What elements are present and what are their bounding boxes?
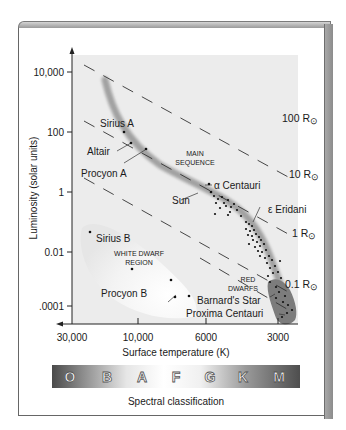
x-tick-label: 6000 [195, 332, 218, 343]
main-sequence-label: SEQUENCE [175, 159, 215, 167]
y-tick-label: .0001 [39, 301, 64, 312]
white-dwarf-label: REGION [125, 259, 153, 266]
main-sequence-label: MAIN [186, 150, 204, 157]
y-axis-arrow-icon [70, 47, 75, 54]
star-label-epsilon-eridani: ε Eridani [268, 204, 306, 215]
red-dwarfs-label: RED [241, 276, 256, 283]
spectral-class-m: M [273, 369, 285, 385]
star-label-altair: Altair [87, 146, 110, 157]
hr-diagram: 10,000 100 1 0.01 .0001 Luminosity (sola… [0, 0, 346, 430]
radius-label-0-1: 0.1 R⊙ [285, 278, 318, 292]
x-tick-labels: 30,000 10,000 6000 3000 [57, 332, 290, 343]
radius-label-10: 10 R⊙ [289, 168, 319, 182]
star-label-proxima-centauri: Proxima Centauri [186, 308, 263, 319]
star-label-alpha-centauri: α Centauri [214, 180, 260, 191]
y-tick-label: 100 [47, 127, 64, 138]
spectral-class-o: O [65, 369, 76, 385]
star-label-procyon-a: Procyon A [81, 168, 127, 179]
y-tick-label: 0.01 [45, 247, 65, 258]
x-axis-label: Surface temperature (K) [122, 347, 229, 358]
spectral-class-k: K [238, 369, 248, 385]
star-label-procyon-b: Procyon B [101, 288, 147, 299]
y-axis-label: Luminosity (solar units) [28, 137, 39, 240]
spectral-class-a: A [137, 369, 147, 385]
x-tick-label: 3000 [267, 332, 290, 343]
star-label-sirius-b: Sirius B [96, 233, 131, 244]
radius-label-100: 100 R⊙ [282, 112, 318, 126]
red-dwarfs-label: DWARFS [228, 285, 258, 292]
x-tick-label: 30,000 [57, 332, 88, 343]
white-dwarf-label: WHITE DWARF [114, 250, 164, 257]
spectral-class-f: F [172, 369, 181, 385]
radius-label-1: 1 R⊙ [292, 227, 316, 241]
y-tick-label: 1 [58, 187, 64, 198]
spectral-class-b: B [102, 369, 112, 385]
star-label-barnards-star: Barnard's Star [197, 295, 261, 306]
y-tick-label: 10,000 [33, 67, 64, 78]
spectral-classification-label: Spectral classification [128, 396, 224, 407]
x-tick-label: 10,000 [123, 332, 154, 343]
star-label-sirius-a: Sirius A [100, 118, 134, 129]
star-label-sun: Sun [172, 195, 190, 206]
spectral-class-g: G [205, 369, 216, 385]
